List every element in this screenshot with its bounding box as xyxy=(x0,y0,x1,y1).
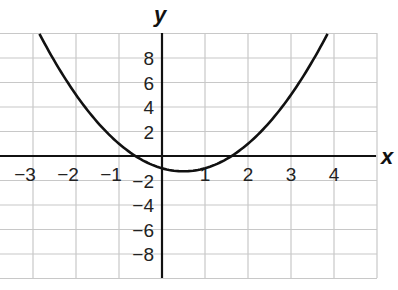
y-tick-label: −6 xyxy=(132,220,154,241)
parabola-graph: −3−2−11234 8642−2−4−6−8 x y xyxy=(0,0,398,290)
x-tick-label: −3 xyxy=(14,164,36,185)
x-tick-labels: −3−2−11234 xyxy=(14,164,340,185)
y-tick-label: −2 xyxy=(132,171,154,192)
y-tick-label: 6 xyxy=(143,73,154,94)
y-tick-label: 4 xyxy=(143,97,154,118)
parabola-curve xyxy=(39,34,327,171)
x-tick-label: 4 xyxy=(329,164,340,185)
x-axis-label: x xyxy=(380,144,394,169)
x-tick-label: 3 xyxy=(286,164,297,185)
x-tick-label: 2 xyxy=(243,164,254,185)
x-tick-label: −1 xyxy=(100,164,122,185)
y-tick-label: 2 xyxy=(143,122,154,143)
x-tick-label: −2 xyxy=(57,164,79,185)
y-tick-label: −8 xyxy=(132,244,154,265)
y-tick-label: −4 xyxy=(132,195,154,216)
y-axis-label: y xyxy=(153,2,168,27)
y-tick-label: 8 xyxy=(143,48,154,69)
